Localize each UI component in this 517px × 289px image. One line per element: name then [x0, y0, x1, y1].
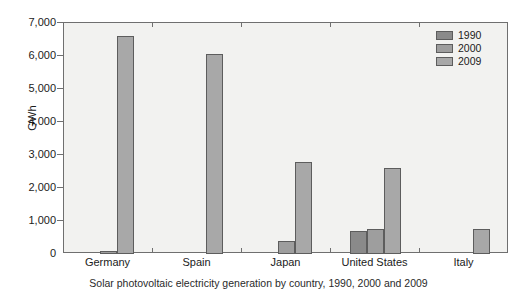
- x-axis-tick: [330, 248, 331, 253]
- x-axis-tick: [152, 248, 153, 253]
- legend-swatch: [436, 44, 453, 53]
- x-axis-tick: [419, 248, 420, 253]
- x-category-label: Italy: [453, 256, 473, 268]
- x-axis-tick: [241, 22, 242, 27]
- y-tick-label: 4,000: [8, 115, 56, 127]
- x-axis-tick: [152, 22, 153, 27]
- chart-legend: 199020002009: [433, 27, 485, 70]
- legend-label: 2000: [458, 43, 481, 54]
- bar: [100, 251, 117, 254]
- x-axis-tick: [330, 22, 331, 27]
- y-tick-label: 0: [8, 247, 56, 259]
- x-axis-tick: [419, 22, 420, 27]
- bar: [367, 229, 384, 254]
- bar: [473, 229, 490, 254]
- bar: [206, 54, 223, 254]
- y-tick-label: 6,000: [8, 49, 56, 61]
- bar: [350, 231, 367, 254]
- legend-item: 2009: [436, 56, 481, 67]
- bar: [295, 162, 312, 254]
- y-tick-label: 1,000: [8, 214, 56, 226]
- legend-label: 2009: [458, 56, 481, 67]
- legend-swatch: [436, 31, 453, 40]
- legend-label: 1990: [458, 30, 481, 41]
- chart-caption: Solar photovoltaic electricity generatio…: [0, 277, 517, 289]
- x-category-label: Spain: [182, 256, 210, 268]
- y-tick-label: 5,000: [8, 82, 56, 94]
- x-axis-tick: [241, 248, 242, 253]
- y-tick-label: 7,000: [8, 16, 56, 28]
- bar: [278, 241, 295, 254]
- x-category-label: United States: [341, 256, 407, 268]
- y-tick-label: 2,000: [8, 181, 56, 193]
- legend-swatch: [436, 57, 453, 66]
- x-category-label: Germany: [85, 256, 130, 268]
- x-category-label: Japan: [271, 256, 301, 268]
- y-tick-label: 3,000: [8, 148, 56, 160]
- legend-item: 1990: [436, 30, 481, 41]
- bar: [384, 168, 401, 254]
- bar: [117, 36, 134, 254]
- legend-item: 2000: [436, 43, 481, 54]
